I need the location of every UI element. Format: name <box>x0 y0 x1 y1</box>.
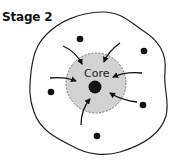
particle <box>94 133 101 140</box>
particle <box>48 89 55 96</box>
core-center-dot <box>89 81 102 94</box>
diagram-canvas: Stage 2 Core <box>0 0 177 161</box>
particle <box>141 48 148 55</box>
diagram-svg: Core <box>0 0 177 161</box>
core-label: Core <box>84 67 110 80</box>
particle <box>77 36 84 43</box>
particle <box>140 102 147 109</box>
